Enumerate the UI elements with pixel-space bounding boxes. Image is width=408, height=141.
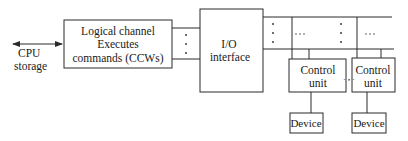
horizontal-ellipsis-icon [365,33,374,34]
io-interface-label-line1: I/O [221,38,236,50]
control-unit-ellipsis: · · · [343,75,355,84]
io-interface-label-line2: interface [210,51,250,63]
control-unit-label-line1: Control [300,64,335,76]
channel-io-diagram: CPU storage Logical channel Executes com… [0,0,408,141]
vertical-ellipsis-icon [340,23,342,43]
vertical-ellipsis-icon [185,34,187,54]
logical-channel-label-line1: Logical channel [81,25,155,38]
device-label: Device [290,117,321,129]
control-unit-label-line1: Control [355,64,390,76]
device-label: Device [353,117,384,129]
cpu-storage-label-line1: CPU [18,47,41,59]
cpu-storage-label-line2: storage [14,60,47,73]
control-unit-label-line2: unit [364,77,383,89]
control-unit-label-line2: unit [309,77,328,89]
logical-channel-label-line3: commands (CCWs) [72,52,163,65]
logical-channel-label-line2: Executes [97,38,139,50]
horizontal-ellipsis-icon [295,33,304,34]
vertical-ellipsis-icon [272,23,274,43]
